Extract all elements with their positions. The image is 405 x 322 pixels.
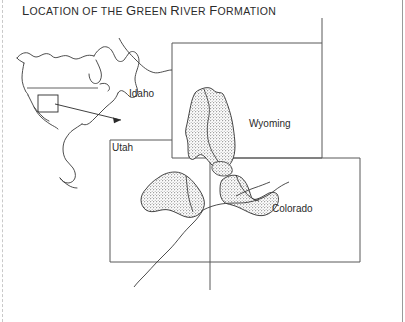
inset-study-area-box [38,95,58,112]
north-america-outline [17,47,139,188]
state-label-idaho: Idaho [129,88,154,100]
inset-pointer-arrow [55,104,121,123]
state-label-wyoming: Wyoming [249,118,291,130]
inset-map-north-america [0,0,405,322]
figure-root: LOCATION OF THE GREEN RIVER FORMATION [0,0,405,322]
state-label-utah: Utah [112,142,133,154]
state-label-colorado: Colorado [272,203,313,215]
